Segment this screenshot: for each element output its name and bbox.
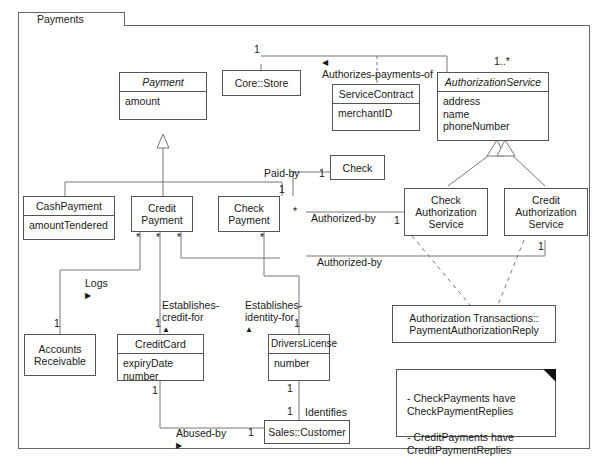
label-logs-text: Logs bbox=[85, 277, 108, 289]
note-fold-corner bbox=[543, 369, 556, 382]
class-drivers-license-attributes: number bbox=[269, 353, 329, 373]
label-authorized-by-check-text: Authorized-by bbox=[311, 212, 376, 224]
class-cash-payment-attributes: amountTendered bbox=[24, 215, 114, 235]
multiplicity-creditpayment-3: * bbox=[177, 232, 181, 243]
label-identifies: Identifies bbox=[305, 394, 347, 418]
class-payment-name: Payment bbox=[120, 73, 206, 91]
multiplicity-license-top: 1 bbox=[294, 318, 300, 329]
right-triangle-icon-2: ▶ bbox=[176, 442, 182, 450]
class-core-store[interactable]: Core::Store bbox=[222, 70, 301, 96]
label-authorized-by-check: Authorized-by bbox=[311, 200, 376, 224]
up-triangle-icon-2: ▲ bbox=[245, 326, 253, 334]
package-tab-label: Payments bbox=[18, 12, 125, 26]
label-abused-by: Abused-by ▶ bbox=[176, 415, 226, 451]
left-triangle-icon: ◀ bbox=[322, 59, 328, 67]
multiplicity-checkpayment-authorized: * bbox=[293, 206, 297, 217]
label-identifies-text: Identifies bbox=[305, 406, 347, 418]
multiplicity-checkpayment-bottom: * bbox=[260, 232, 264, 243]
class-drivers-license[interactable]: DriversLicense number bbox=[268, 334, 330, 381]
class-authorization-service-attributes: address name phoneNumber bbox=[438, 91, 548, 136]
label-abused-by-text: Abused-by bbox=[176, 427, 226, 439]
note-payment-replies: - CheckPayments have CheckPaymentReplies… bbox=[396, 369, 556, 437]
multiplicity-store: 1 bbox=[254, 44, 260, 55]
multiplicity-checkpayment-paidby: 1 bbox=[279, 184, 285, 195]
class-accounts-receivable-name: Accounts Receivable bbox=[34, 343, 86, 367]
label-establishes-credit-for-text: Establishes- credit-for bbox=[162, 299, 219, 323]
class-sales-customer-name: Sales::Customer bbox=[268, 426, 346, 438]
class-core-store-name: Core::Store bbox=[235, 77, 289, 89]
class-drivers-license-name: DriversLicense bbox=[269, 335, 329, 353]
right-triangle-icon: ▶ bbox=[85, 292, 91, 300]
label-authorized-by-credit: Authorized-by bbox=[317, 244, 382, 268]
class-cash-payment[interactable]: CashPayment amountTendered bbox=[23, 196, 115, 240]
multiplicity-creditpayment-2: * bbox=[156, 232, 160, 243]
multiplicity-creditcard-top: 1 bbox=[155, 318, 161, 329]
class-check-payment[interactable]: Check Payment bbox=[218, 196, 280, 232]
class-service-contract[interactable]: ServiceContract merchantID bbox=[332, 84, 420, 131]
class-sales-customer[interactable]: Sales::Customer bbox=[264, 420, 350, 444]
multiplicity-customer-left: 1 bbox=[248, 427, 254, 438]
up-triangle-icon: ▲ bbox=[162, 326, 170, 334]
class-credit-card-name: CreditCard bbox=[118, 335, 203, 353]
class-service-contract-attributes: merchantID bbox=[333, 103, 419, 123]
multiplicity-license-bottom: 1 bbox=[287, 383, 293, 394]
multiplicity-customer-top: 1 bbox=[287, 406, 293, 417]
class-check[interactable]: Check bbox=[330, 155, 385, 180]
label-authorizes-payments-of-text: Authorizes-payments-of bbox=[322, 68, 433, 80]
class-credit-card-attributes: expiryDate number bbox=[118, 353, 203, 385]
label-logs: Logs ▶ bbox=[85, 265, 108, 301]
label-paid-by: Paid-by bbox=[264, 155, 300, 179]
multiplicity-credit-auth-service: 1 bbox=[538, 241, 544, 252]
label-establishes-credit-for: Establishes- credit-for ▲ bbox=[162, 287, 219, 335]
class-payment-authorization-reply-name: Authorization Transactions:: PaymentAuth… bbox=[409, 312, 539, 336]
class-service-contract-name: ServiceContract bbox=[333, 85, 419, 103]
label-paid-by-text: Paid-by bbox=[264, 167, 300, 179]
class-cash-payment-name: CashPayment bbox=[24, 197, 114, 215]
class-credit-payment[interactable]: Credit Payment bbox=[131, 196, 193, 232]
class-credit-payment-name: Credit Payment bbox=[141, 202, 182, 226]
class-check-authorization-service-name: Check Authorization Service bbox=[415, 194, 476, 230]
class-check-authorization-service[interactable]: Check Authorization Service bbox=[404, 188, 488, 236]
class-check-name: Check bbox=[343, 162, 373, 174]
label-authorizes-payments-of: ◀ Authorizes-payments-of bbox=[322, 44, 433, 80]
multiplicity-creditcard-bottom: 1 bbox=[152, 385, 158, 396]
class-check-payment-name: Check Payment bbox=[228, 202, 269, 226]
class-credit-authorization-service[interactable]: Credit Authorization Service bbox=[504, 188, 588, 236]
multiplicity-accounts-receivable: 1 bbox=[54, 318, 60, 329]
class-accounts-receivable[interactable]: Accounts Receivable bbox=[24, 334, 96, 376]
label-authorized-by-credit-text: Authorized-by bbox=[317, 256, 382, 268]
class-payment[interactable]: Payment amount bbox=[119, 72, 207, 120]
uml-class-diagram-canvas: Payments Payment amount Core::Store Serv… bbox=[0, 0, 608, 473]
class-credit-authorization-service-name: Credit Authorization Service bbox=[515, 194, 576, 230]
multiplicity-check-auth-service: 1 bbox=[394, 215, 400, 226]
class-payment-attributes: amount bbox=[120, 91, 206, 111]
note-text: - CheckPayments have CheckPaymentReplies… bbox=[407, 392, 516, 456]
multiplicity-check: 1 bbox=[319, 168, 325, 179]
class-authorization-service-name: AuthorizationService bbox=[438, 73, 548, 91]
class-payment-authorization-reply[interactable]: Authorization Transactions:: PaymentAuth… bbox=[392, 305, 556, 343]
class-authorization-service[interactable]: AuthorizationService address name phoneN… bbox=[437, 72, 549, 141]
multiplicity-auth-service: 1..* bbox=[494, 56, 510, 67]
class-credit-card[interactable]: CreditCard expiryDate number bbox=[117, 334, 204, 381]
multiplicity-creditpayment-1: * bbox=[136, 232, 140, 243]
